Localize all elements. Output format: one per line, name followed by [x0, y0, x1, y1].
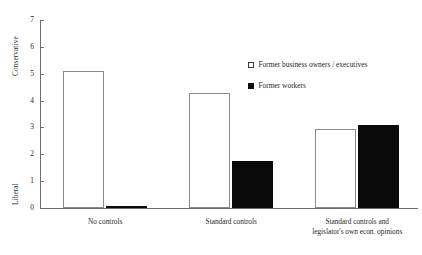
- x-axis-line: [40, 208, 418, 209]
- y-axis-tick: [41, 20, 44, 21]
- legend-item-label: Former business owners / executives: [259, 61, 368, 68]
- bar: [232, 161, 273, 208]
- y-axis-tick: [41, 101, 44, 102]
- open-square-icon: [248, 62, 254, 68]
- bar: [358, 125, 399, 208]
- y-axis-tick: [41, 74, 44, 75]
- y-axis-tick-label: 3: [20, 123, 34, 131]
- y-axis-tick-label: 5: [20, 70, 34, 78]
- y-axis-tick-label: 0: [20, 204, 34, 212]
- y-axis-tick: [41, 154, 44, 155]
- y-axis-line: [40, 20, 41, 208]
- y-axis-tick-label-text: 5: [20, 70, 34, 77]
- y-axis-top-label: Conservative: [12, 36, 20, 76]
- y-axis-tick-label-text: 3: [20, 123, 34, 130]
- legend-item: Former business owners / executives: [248, 58, 418, 72]
- y-axis-tick-label: 2: [20, 150, 34, 158]
- y-axis-tick-label: 7: [20, 16, 34, 24]
- y-axis-tick-label-text: 0: [20, 204, 34, 211]
- bar: [106, 206, 147, 208]
- plot-area: 01234567 No controlsStandard controlsSta…: [40, 18, 418, 210]
- y-axis-tick: [41, 208, 44, 209]
- y-axis-tick-label-text: 1: [20, 177, 34, 184]
- y-axis-tick-label-text: 4: [20, 97, 34, 104]
- x-axis-category-label-line: legislator's own econ. opinions: [277, 227, 422, 237]
- y-axis-tick-label-text: 7: [20, 16, 34, 23]
- bar-chart: Conservative Liberal 01234567 No control…: [0, 0, 422, 255]
- bar: [63, 71, 104, 208]
- bar: [189, 93, 230, 208]
- y-axis-tick: [41, 181, 44, 182]
- chart-legend: Former business owners / executivesForme…: [248, 58, 418, 100]
- y-axis-tick-label-text: 6: [20, 43, 34, 50]
- filled-square-icon: [248, 83, 254, 89]
- y-axis-tick-label: 4: [20, 97, 34, 105]
- legend-item: Former workers: [248, 79, 418, 93]
- y-axis-tick-label-text: 2: [20, 150, 34, 157]
- bar: [315, 129, 356, 208]
- y-axis-tick: [41, 127, 44, 128]
- x-axis-category-label: Standard controls andlegislator's own ec…: [277, 217, 422, 236]
- x-axis-category-label-line: Standard controls and: [277, 217, 422, 227]
- y-axis-bottom-label: Liberal: [12, 183, 20, 205]
- y-axis-tick-label: 6: [20, 43, 34, 51]
- legend-item-label: Former workers: [259, 82, 306, 89]
- y-axis-tick-label: 1: [20, 177, 34, 185]
- y-axis-tick: [41, 47, 44, 48]
